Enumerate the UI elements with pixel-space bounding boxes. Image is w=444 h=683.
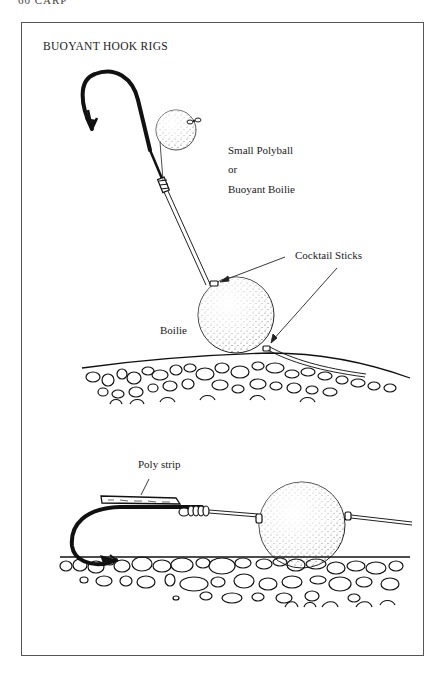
- label-small-polyball: Small Polyball: [228, 141, 293, 160]
- top-hook-shank: [150, 150, 169, 193]
- bottom-hair-link: [209, 510, 258, 517]
- small-polyball: [156, 110, 201, 180]
- bottom-boilie: [259, 482, 345, 568]
- bottom-knot: [179, 506, 209, 516]
- label-or: or: [228, 160, 237, 179]
- bottom-lakebed: [60, 557, 410, 607]
- label-buoyant-boilie: Buoyant Boilie: [228, 180, 295, 199]
- top-hook-icon: [83, 72, 150, 150]
- top-lakebed: [82, 353, 410, 404]
- poly-strip: [101, 479, 180, 504]
- top-hair-link: [164, 191, 210, 285]
- label-cocktail-sticks: Cocktail Sticks: [295, 246, 362, 265]
- top-boilie: [198, 277, 274, 353]
- bottom-main-line: [351, 515, 412, 525]
- label-boilie: Boilie: [160, 321, 187, 340]
- rig-illustration: [0, 0, 444, 683]
- label-poly-strip: Poly strip: [138, 455, 180, 474]
